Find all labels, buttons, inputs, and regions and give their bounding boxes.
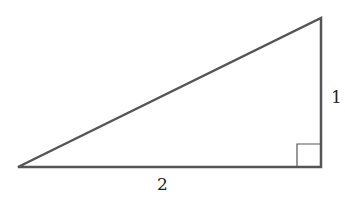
right-triangle [18,18,321,167]
right-angle-marker [297,144,321,167]
horizontal-leg-label: 2 [157,174,168,194]
triangle-diagram: 1 2 [0,0,345,200]
vertical-leg-label: 1 [331,87,342,107]
